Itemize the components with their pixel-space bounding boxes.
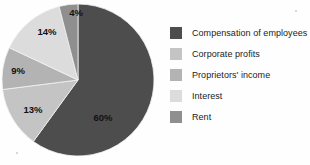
pie-svg: 60%13%9%14%4% (0, 0, 160, 165)
legend-item-label: Compensation of employees (192, 28, 307, 38)
legend-item-label: Interest (192, 91, 222, 101)
pie-slice-value-label: 9% (11, 65, 25, 76)
legend-item[interactable]: Corporate profits (170, 47, 308, 61)
scan-speck (16, 152, 18, 154)
pie-slice-value-label: 4% (69, 7, 83, 18)
legend-item-label: Proprietors' income (192, 70, 270, 80)
pie-chart-figure: 60%13%9%14%4% Compensation of employeesC… (0, 0, 310, 165)
legend-item[interactable]: Compensation of employees (170, 26, 308, 40)
pie-chart-graphic: 60%13%9%14%4% (0, 0, 160, 165)
legend: Compensation of employeesCorporate profi… (170, 26, 308, 131)
pie-slices-group (2, 4, 154, 156)
legend-swatch-icon (170, 90, 182, 102)
pie-slice-value-label: 13% (23, 104, 43, 115)
legend-swatch-icon (170, 69, 182, 81)
legend-swatch-icon (170, 111, 182, 123)
legend-item[interactable]: Rent (170, 110, 308, 124)
legend-item-label: Corporate profits (192, 49, 260, 59)
pie-slice-value-label: 14% (37, 26, 57, 37)
legend-item[interactable]: Proprietors' income (170, 68, 308, 82)
pie-slice-value-label: 60% (93, 112, 113, 123)
legend-item-label: Rent (192, 112, 211, 122)
legend-swatch-icon (170, 48, 182, 60)
legend-item[interactable]: Interest (170, 89, 308, 103)
legend-swatch-icon (170, 27, 182, 39)
scan-speck (295, 10, 297, 12)
